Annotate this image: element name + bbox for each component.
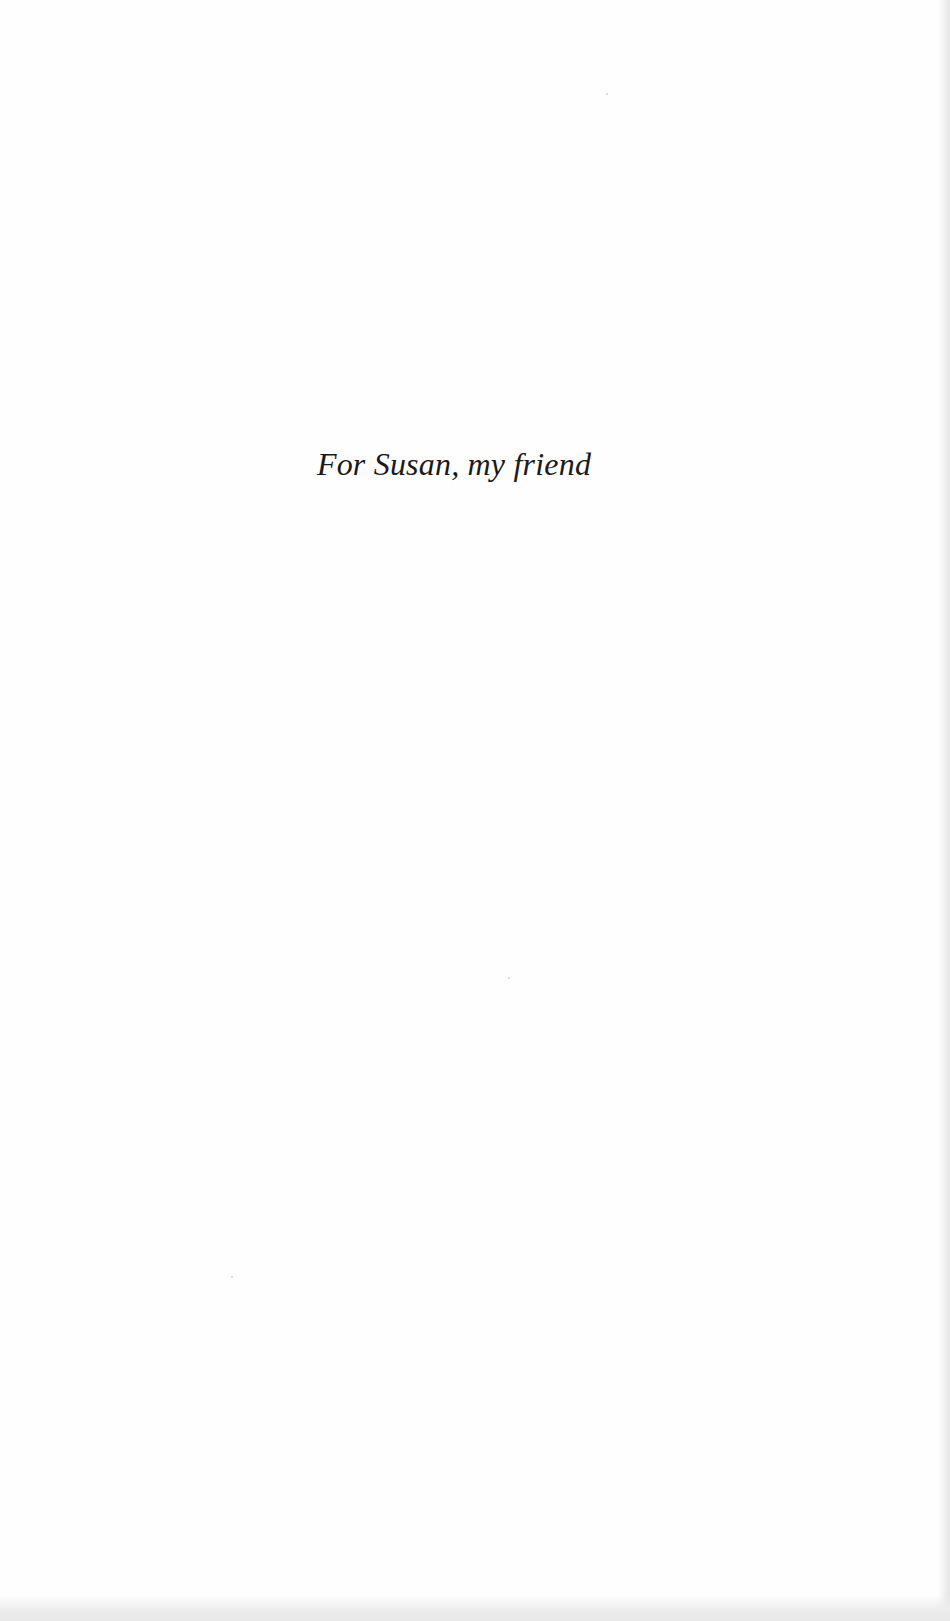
scan-speck (508, 977, 510, 979)
scan-bottom-edge (0, 1595, 950, 1621)
scan-right-edge (938, 0, 950, 1621)
book-page: For Susan, my friend (0, 0, 950, 1621)
scan-speck (606, 93, 608, 95)
dedication-text: For Susan, my friend (0, 442, 908, 486)
scan-speck (231, 1276, 233, 1278)
